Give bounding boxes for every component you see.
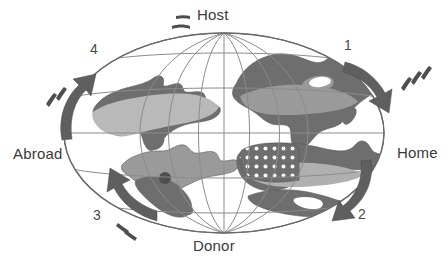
arrow-number-2: 2 xyxy=(358,207,366,221)
globe-diagram xyxy=(0,0,448,261)
motion-dashes-host xyxy=(172,15,190,29)
motion-dashes-right xyxy=(401,66,432,91)
axis-label-home: Home xyxy=(397,145,438,160)
arrow-number-1: 1 xyxy=(344,38,352,52)
motion-dashes-bottom-left xyxy=(116,223,137,241)
axis-label-host: Host xyxy=(197,7,229,22)
arrow-number-3: 3 xyxy=(93,208,101,222)
location-dot-marker xyxy=(159,172,171,184)
motion-dashes-left xyxy=(46,87,67,107)
arrow-number-4: 4 xyxy=(90,42,98,56)
axis-label-donor: Donor xyxy=(193,238,235,253)
axis-label-abroad: Abroad xyxy=(13,146,63,161)
